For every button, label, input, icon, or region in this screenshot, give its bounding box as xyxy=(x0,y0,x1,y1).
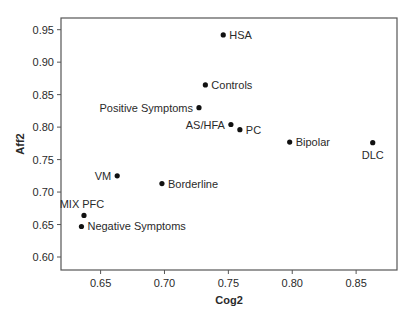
data-point: AS/HFA xyxy=(186,119,234,131)
y-tick-label: 0.75 xyxy=(33,154,54,166)
data-point: DLC xyxy=(362,140,384,161)
x-tick-label: 0.85 xyxy=(345,277,366,289)
point-label: PC xyxy=(246,124,261,136)
data-point: Borderline xyxy=(159,178,218,190)
data-point: PC xyxy=(237,124,261,136)
y-axis-title: Aff2 xyxy=(14,133,26,154)
point-marker xyxy=(203,82,208,87)
y-axis: 0.600.650.700.750.800.850.900.95 xyxy=(33,24,61,263)
point-marker xyxy=(228,122,233,127)
point-label: Controls xyxy=(211,79,252,91)
point-marker xyxy=(370,140,375,145)
data-point: HSA xyxy=(221,29,253,41)
y-tick-label: 0.60 xyxy=(33,251,54,263)
point-marker xyxy=(79,224,84,229)
point-label: MIX PFC xyxy=(60,198,105,210)
point-label: Borderline xyxy=(168,178,218,190)
scatter-chart: 0.600.650.700.750.800.850.900.95 0.650.7… xyxy=(0,0,412,319)
point-label: AS/HFA xyxy=(186,119,226,131)
data-point: Positive Symptoms xyxy=(99,102,201,114)
data-point: Negative Symptoms xyxy=(79,220,187,232)
data-points: HSAControlsPositive SymptomsAS/HFAPCBipo… xyxy=(60,29,384,233)
data-point: MIX PFC xyxy=(60,198,105,218)
x-axis-title: Cog2 xyxy=(215,294,243,306)
x-tick-label: 0.80 xyxy=(282,277,303,289)
point-marker xyxy=(159,181,164,186)
data-point: Bipolar xyxy=(287,136,330,148)
point-marker xyxy=(115,173,120,178)
point-label: HSA xyxy=(229,29,252,41)
point-label: Positive Symptoms xyxy=(99,102,193,114)
y-tick-label: 0.85 xyxy=(33,89,54,101)
y-tick-label: 0.95 xyxy=(33,24,54,36)
point-marker xyxy=(81,213,86,218)
x-tick-label: 0.75 xyxy=(218,277,239,289)
point-label: Negative Symptoms xyxy=(87,220,186,232)
point-label: Bipolar xyxy=(296,136,331,148)
point-label: VM xyxy=(95,170,112,182)
point-marker xyxy=(196,105,201,110)
x-tick-label: 0.65 xyxy=(90,277,111,289)
y-tick-label: 0.80 xyxy=(33,121,54,133)
y-tick-label: 0.90 xyxy=(33,56,54,68)
point-marker xyxy=(287,139,292,144)
data-point: VM xyxy=(95,170,120,182)
x-axis: 0.650.700.750.800.85 xyxy=(90,270,367,289)
chart-canvas: 0.600.650.700.750.800.850.900.95 0.650.7… xyxy=(0,0,412,319)
y-tick-label: 0.65 xyxy=(33,219,54,231)
point-marker xyxy=(237,127,242,132)
y-tick-label: 0.70 xyxy=(33,186,54,198)
point-label: DLC xyxy=(362,149,384,161)
data-point: Controls xyxy=(203,79,253,91)
point-marker xyxy=(221,32,226,37)
x-tick-label: 0.70 xyxy=(154,277,175,289)
